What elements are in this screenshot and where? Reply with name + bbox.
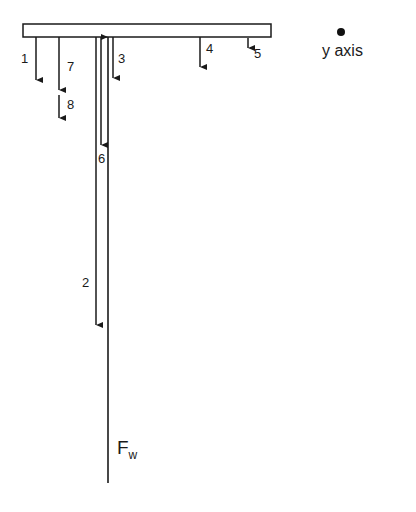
y-axis-dot-icon xyxy=(337,28,345,36)
arrow-label-2: 2 xyxy=(82,276,89,289)
arrow-label-4: 4 xyxy=(206,42,213,55)
beam xyxy=(23,24,271,37)
y-axis-label: y axis xyxy=(322,43,363,59)
arrow-label-6: 6 xyxy=(98,152,105,165)
arrow-label-5: 5 xyxy=(254,47,261,60)
arrow-label-3: 3 xyxy=(118,52,125,65)
force-label-subscript: w xyxy=(129,448,138,462)
force-label-fw: Fw xyxy=(117,438,137,457)
arrow-label-8: 8 xyxy=(67,98,74,111)
arrow-label-1: 1 xyxy=(21,52,28,65)
force-diagram-canvas xyxy=(0,0,416,512)
force-label-main: F xyxy=(117,437,129,458)
arrow-label-7: 7 xyxy=(67,60,74,73)
